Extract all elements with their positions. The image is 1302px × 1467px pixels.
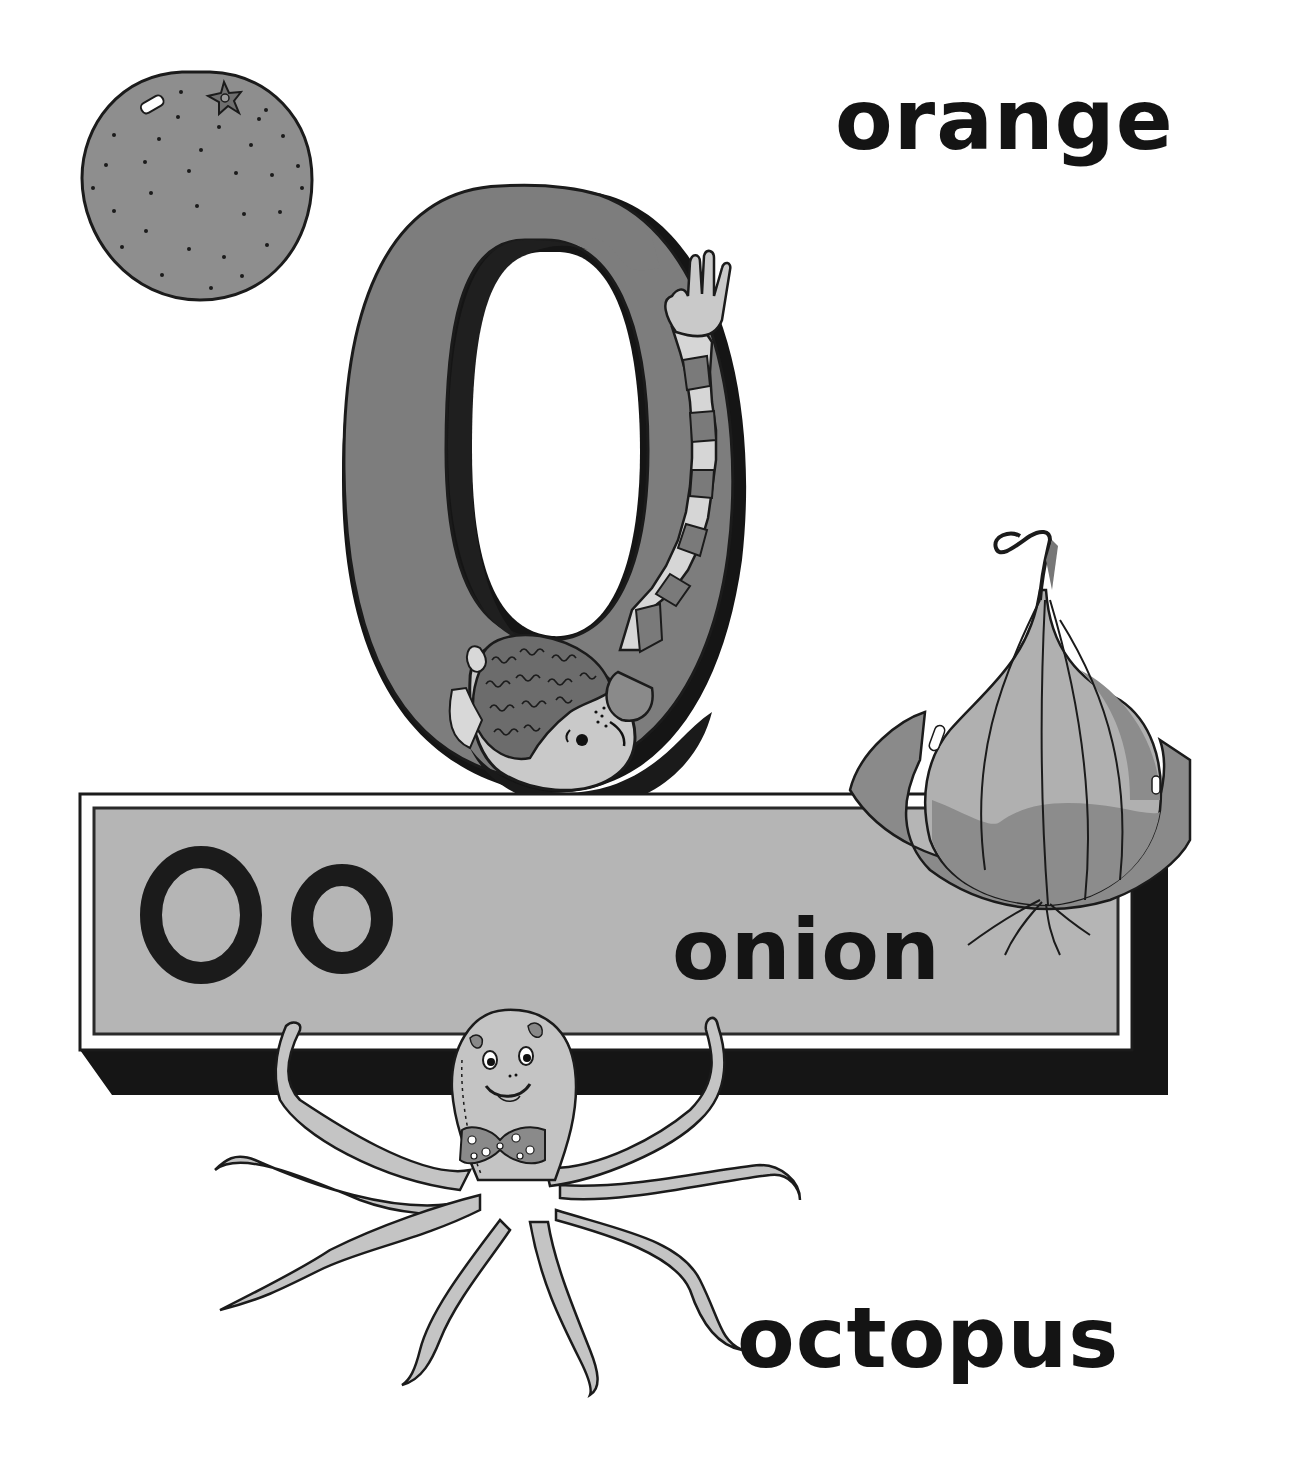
word-orange: orange xyxy=(835,78,1174,162)
orange-illustration xyxy=(82,72,312,300)
big-letter-o-illustration xyxy=(342,185,746,808)
word-onion: onion xyxy=(672,908,941,992)
word-octopus: octopus xyxy=(737,1296,1119,1380)
illustration-canvas xyxy=(0,0,1302,1467)
alphabet-page-letter-o: orange onion octopus O o xyxy=(0,0,1302,1467)
